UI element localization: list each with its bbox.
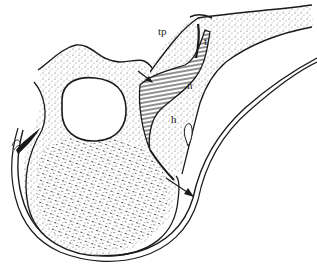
spinal-canal [62, 78, 126, 141]
vertebra-diagram: tp t n h [0, 0, 317, 268]
label-tp: tp [158, 25, 167, 37]
label-t: t [204, 35, 207, 47]
label-n: n [187, 79, 193, 91]
label-h: h [171, 113, 177, 125]
